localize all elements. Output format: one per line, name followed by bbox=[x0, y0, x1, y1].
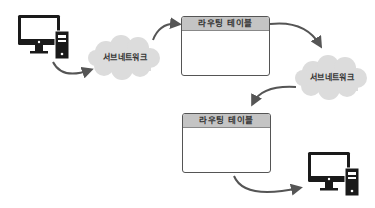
subnet-cloud-1: 서브네트워크 bbox=[86, 34, 164, 80]
routing-table-1: 라우팅 테이블 bbox=[181, 16, 270, 76]
computer-icon bbox=[304, 150, 364, 200]
subnet-label-2: 서브네트워크 bbox=[293, 71, 371, 82]
arrow-subnet2-to-table2 bbox=[253, 87, 296, 103]
arrow-pc-to-subnet1 bbox=[53, 62, 90, 74]
routing-table-header-1: 라우팅 테이블 bbox=[182, 17, 269, 31]
arrow-table2-to-pc bbox=[234, 176, 299, 192]
routing-table-2: 라우팅 테이블 bbox=[182, 113, 271, 173]
subnet-label-1: 서브네트워크 bbox=[86, 51, 164, 62]
routing-table-header-2: 라우팅 테이블 bbox=[183, 114, 270, 128]
subnet-cloud-2: 서브네트워크 bbox=[293, 54, 371, 100]
computer-destination bbox=[304, 150, 364, 200]
computer-source bbox=[14, 13, 74, 63]
computer-icon bbox=[14, 13, 74, 63]
arrow-table1-to-subnet2 bbox=[270, 23, 320, 45]
